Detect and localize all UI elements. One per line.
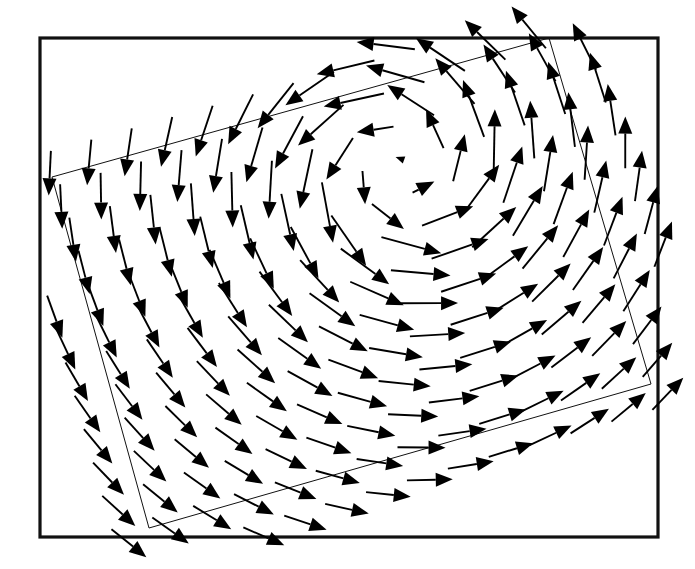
vector-arrow-head: [94, 202, 108, 219]
vector-arrow-head: [263, 201, 277, 218]
vector-arrow-head: [160, 496, 178, 512]
vector-arrow-shaft: [532, 275, 558, 301]
vector-arrow-head: [646, 186, 660, 204]
vector-arrow-shaft: [571, 418, 595, 433]
vector-arrow-shaft: [328, 360, 362, 373]
vector-arrow-head: [213, 514, 231, 529]
vector-arrow-shaft: [184, 473, 207, 489]
vector-arrow-shaft: [645, 202, 654, 234]
vector-arrow-head: [169, 390, 185, 408]
vector-arrow-head: [628, 393, 646, 409]
vector-arrow-head: [308, 518, 326, 531]
vector-arrow-head: [323, 225, 337, 243]
vector-arrow-head: [201, 349, 217, 367]
vector-arrow-shaft: [422, 212, 457, 225]
vector-arrow-shaft: [563, 224, 581, 257]
vector-arrow-layer: [43, 6, 684, 557]
vector-arrow-head: [610, 197, 623, 215]
vector-arrow-head: [303, 353, 321, 369]
vector-arrow-head: [275, 150, 289, 168]
vector-arrow-head: [369, 395, 387, 408]
vector-arrow-shaft: [592, 333, 614, 356]
vector-arrow-head: [314, 382, 332, 396]
vector-arrow-shaft: [75, 396, 91, 419]
vector-arrow-shaft: [347, 426, 378, 432]
vector-arrow-head: [454, 134, 468, 152]
vector-arrow-shaft: [102, 496, 122, 515]
vector-arrow-shaft: [206, 394, 229, 413]
vector-arrow-shaft: [251, 128, 262, 166]
vector-arrow-shaft: [585, 142, 587, 179]
vector-arrow-shaft: [303, 149, 312, 192]
vector-arrow-head: [505, 71, 518, 89]
vector-arrow-shaft: [583, 297, 605, 323]
vector-arrow-head: [455, 359, 473, 373]
vector-arrow-shaft: [511, 87, 524, 126]
vector-arrow-head: [209, 175, 223, 193]
vector-arrow-shaft: [410, 334, 448, 336]
vector-arrow-head: [96, 446, 112, 464]
vector-arrow-head: [266, 532, 284, 545]
vector-arrow-shaft: [635, 168, 640, 201]
vector-arrow-shaft: [297, 404, 327, 417]
vector-arrow-head: [393, 488, 411, 502]
vector-arrow-head: [659, 222, 672, 240]
vector-arrow-shaft: [470, 381, 503, 391]
vector-arrow-head: [396, 157, 406, 164]
vector-arrow-shaft: [110, 206, 114, 236]
vector-arrow-shaft: [441, 279, 480, 292]
vector-arrow-head: [333, 441, 351, 454]
vector-arrow-head: [542, 225, 558, 243]
vector-arrow-shaft: [234, 494, 259, 507]
vector-arrow-head: [385, 457, 403, 471]
vector-arrow-head: [423, 242, 441, 256]
vector-arrow-head: [172, 185, 186, 203]
vector-arrow-shaft: [438, 431, 469, 435]
vector-arrow-shaft: [165, 406, 185, 425]
vector-arrow-head: [342, 472, 360, 485]
vector-arrow-shaft: [544, 152, 550, 191]
vector-arrow-shaft: [179, 150, 182, 185]
vector-arrow-head: [85, 414, 100, 432]
vector-arrow-head: [371, 268, 389, 284]
vector-arrow-shaft: [231, 172, 232, 210]
vector-arrow-shaft: [573, 261, 593, 290]
vector-arrow-shaft: [165, 117, 172, 150]
vector-arrow-shaft: [150, 195, 154, 228]
vector-arrow-head: [421, 409, 438, 423]
vector-arrow-shaft: [610, 101, 615, 136]
vector-arrow-head: [296, 191, 310, 209]
vector-arrow-shaft: [379, 381, 414, 385]
vector-arrow-head: [483, 165, 499, 183]
vector-arrow-shaft: [595, 69, 606, 103]
vector-arrow-head: [547, 62, 560, 80]
vector-arrow-head: [575, 209, 589, 227]
vector-field-figure: [0, 0, 695, 569]
vector-arrow-head: [564, 301, 581, 317]
vector-arrow-head: [366, 64, 384, 77]
vector-arrow-head: [488, 109, 502, 126]
vector-arrow-head: [510, 146, 523, 164]
vector-arrow-shaft: [50, 151, 51, 179]
vector-arrow-head: [462, 391, 480, 405]
vector-arrow-head: [436, 473, 453, 487]
vector-arrow-head: [324, 411, 342, 424]
vector-arrow-head: [588, 53, 601, 71]
vector-arrow-shaft: [602, 369, 624, 389]
vector-arrow-shaft: [654, 237, 665, 266]
vector-arrow-shaft: [140, 162, 141, 194]
vector-arrow-shaft: [247, 383, 273, 402]
vector-arrow-head: [357, 187, 371, 205]
vector-arrow-head: [441, 296, 458, 310]
vector-arrow-shaft: [169, 261, 181, 292]
vector-arrow-shaft: [236, 94, 253, 129]
vector-arrow-head: [202, 483, 220, 499]
vector-arrow-head: [483, 44, 498, 62]
vector-arrow-shaft: [413, 190, 419, 193]
vector-arrow-shaft: [306, 438, 335, 448]
vector-arrow-shaft: [453, 151, 461, 182]
vector-arrow-shaft: [134, 451, 154, 470]
vector-arrow-shaft: [288, 371, 318, 388]
vector-arrow-shaft: [433, 125, 444, 148]
vector-arrow-shaft: [381, 237, 424, 249]
